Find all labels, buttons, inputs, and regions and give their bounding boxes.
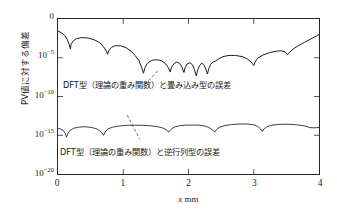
annotation-leader-line xyxy=(127,115,140,139)
y-tick-label: 10−20 xyxy=(18,169,54,178)
x-symbol: x xyxy=(178,194,182,204)
x-tick-label: 3 xyxy=(239,178,269,188)
y-tick-label: 0 xyxy=(18,12,54,21)
y-tick-label: 10−15 xyxy=(18,130,54,139)
x-unit: mm xyxy=(185,194,199,204)
x-axis-title: x mm xyxy=(57,194,320,204)
annotation-label-inverse-matrix: DFT型（理論の重み関数）と逆行列型の誤差 xyxy=(60,145,220,157)
figure-chart-pv-deviation: PV値に対する偏差 010−510−1010−1510−20 01234 x m… xyxy=(0,0,337,218)
x-tick-label: 1 xyxy=(108,178,138,188)
x-tick-label: 0 xyxy=(42,178,72,188)
x-tick-label: 2 xyxy=(174,178,204,188)
series-line xyxy=(58,124,319,137)
annotation-label-convolution: DFT型（理論の重み関数）と畳み込み型の誤差 xyxy=(63,78,231,90)
x-tick-label: 4 xyxy=(305,178,335,188)
series-line xyxy=(58,31,319,76)
y-tick-label: 10−10 xyxy=(18,91,54,100)
y-tick-label: 10−5 xyxy=(18,51,54,60)
